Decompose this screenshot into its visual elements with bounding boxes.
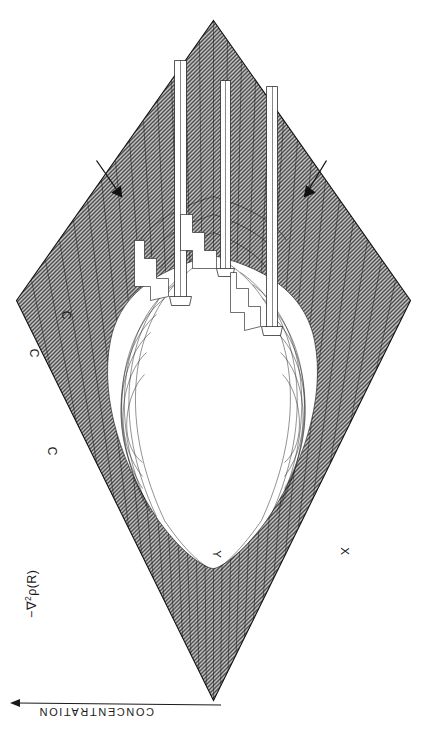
plot-stage <box>0 0 426 739</box>
peak-label-c-1: C <box>59 311 73 320</box>
vertical-axis-label: −∇2ρ(R) <box>24 570 39 618</box>
vertical-axis-label-prefix: −∇ <box>25 601 39 618</box>
vertical-axis-label-suffix: ρ(R) <box>25 570 39 596</box>
peak-label-c-3: C <box>45 447 59 456</box>
base-axis-y-label: Y <box>211 550 223 558</box>
concentration-axis-label: CONCENTRATION <box>38 706 154 717</box>
figure-canvas: −∇2ρ(R) CONCENTRATION Y X C C C <box>0 0 426 739</box>
peak-label-c-2: C <box>27 349 41 358</box>
base-axis-x-label: X <box>339 547 351 555</box>
surface-plot <box>0 0 426 739</box>
vertical-axis-label-exponent: 2 <box>23 596 33 601</box>
